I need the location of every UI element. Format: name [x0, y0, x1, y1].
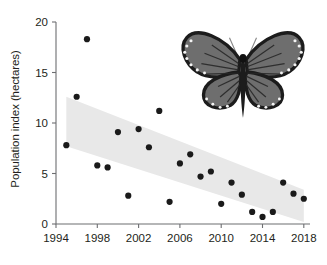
- data-point: [301, 196, 307, 202]
- data-point: [218, 201, 224, 207]
- data-point: [177, 160, 183, 166]
- data-point: [74, 94, 80, 100]
- x-tick-label: 1998: [85, 232, 111, 244]
- confidence-band-area: [66, 97, 303, 222]
- y-tick-label: 20: [35, 16, 48, 28]
- data-point: [84, 36, 90, 42]
- y-tick-label: 10: [35, 117, 48, 129]
- data-point: [290, 191, 296, 197]
- x-tick-label: 1994: [43, 232, 69, 244]
- data-point: [197, 173, 203, 179]
- data-point: [125, 193, 131, 199]
- data-point: [259, 214, 265, 220]
- y-axis-label-container: Population index (hectares): [2, 0, 28, 237]
- y-tick-label: 0: [42, 218, 48, 230]
- monarch-population-figure: Population index (hectares): [0, 0, 327, 265]
- x-tick-label: 2006: [167, 232, 193, 244]
- scatter-plot-canvas: 051015201994199820022006201020142018: [0, 0, 327, 265]
- y-tick-label: 5: [42, 168, 48, 180]
- data-point: [136, 126, 142, 132]
- data-point: [270, 209, 276, 215]
- data-point: [166, 199, 172, 205]
- data-point: [146, 144, 152, 150]
- data-point: [249, 209, 255, 215]
- x-tick-label: 2002: [126, 232, 152, 244]
- data-point: [187, 151, 193, 157]
- data-point: [239, 192, 245, 198]
- data-point: [228, 179, 234, 185]
- x-tick-label: 2014: [250, 232, 276, 244]
- monarch-butterfly-icon: [183, 33, 303, 118]
- data-point: [208, 168, 214, 174]
- data-point: [280, 179, 286, 185]
- y-axis-label: Population index (hectares): [9, 50, 21, 187]
- x-tick-label: 2010: [208, 232, 234, 244]
- trend-confidence-band: [66, 97, 303, 222]
- y-tick-label: 15: [35, 67, 48, 79]
- data-point: [156, 108, 162, 114]
- data-point: [115, 129, 121, 135]
- data-point: [63, 142, 69, 148]
- x-tick-label: 2018: [291, 232, 317, 244]
- data-point: [94, 162, 100, 168]
- data-point: [105, 164, 111, 170]
